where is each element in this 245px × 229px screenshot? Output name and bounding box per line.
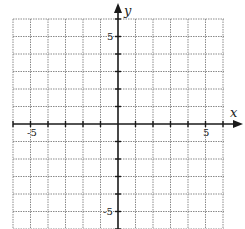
x-tick-label-neg5: -5 — [27, 127, 37, 138]
x-axis-label: x — [230, 105, 238, 120]
y-tick-label-neg5: -5 — [103, 206, 113, 217]
y-axis-label: y — [123, 3, 132, 18]
y-axis-arrow-icon — [114, 3, 122, 13]
y-tick-label-5: 5 — [107, 31, 113, 42]
x-axis-arrow-icon — [233, 120, 243, 128]
x-tick-label-5: 5 — [203, 127, 209, 138]
coordinate-plane: x y -5 5 5 -5 — [0, 0, 245, 229]
